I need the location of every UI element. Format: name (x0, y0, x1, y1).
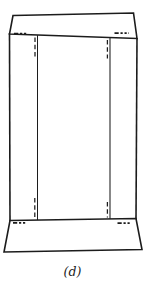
right-stile-outer-edge (136, 38, 137, 219)
top-rail (10, 13, 138, 39)
figure-panel: (d) (0, 0, 147, 288)
frame-diagram: (d) (0, 0, 147, 288)
left-stile-outer-edge (10, 33, 11, 221)
figure-caption: (d) (64, 264, 82, 279)
